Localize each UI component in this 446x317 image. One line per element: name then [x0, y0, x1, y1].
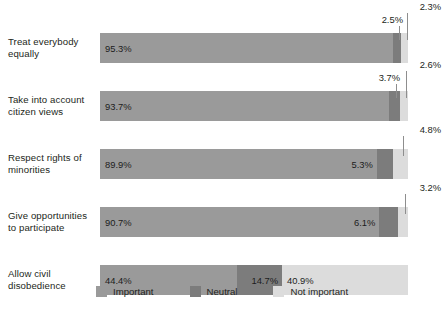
category-label: Take into account citizen views — [8, 94, 96, 117]
segment-value-important: 93.7% — [105, 101, 132, 112]
leader-line-neutral — [399, 26, 400, 40]
category-label: Allow civil disobedience — [8, 268, 96, 291]
segment-value-neutral: 5.3% — [352, 159, 373, 170]
segment-not-important[interactable] — [393, 149, 408, 179]
category-label: Give opportunities to participate — [8, 210, 96, 233]
chart-row: Allow civil disobedience 44.4% 14.7% 40.… — [0, 252, 446, 308]
legend-item-neutral[interactable]: Neutral — [190, 286, 238, 297]
category-label: Respect rights of minorities — [8, 152, 96, 175]
category-label: Treat everybody equally — [8, 36, 96, 59]
segment-important[interactable]: 89.9% 5.3% — [100, 149, 377, 179]
segment-value-neutral: 14.7% — [251, 275, 278, 286]
legend-label-not-important: Not important — [290, 286, 348, 297]
legend-label-neutral: Neutral — [207, 286, 238, 297]
legend-item-important[interactable]: Important — [96, 286, 154, 297]
legend-swatch-not-important — [273, 286, 284, 297]
bar-track: 89.9% 5.3% — [100, 149, 408, 179]
leader-line-not-important — [405, 194, 406, 214]
segment-important[interactable]: 93.7% — [100, 91, 389, 121]
legend-swatch-neutral — [190, 286, 201, 297]
leader-line-not-important — [407, 13, 408, 40]
chart-row: Give opportunities to participate 90.7% … — [0, 194, 446, 250]
segment-value-important: 44.4% — [105, 275, 132, 286]
segment-neutral[interactable] — [389, 91, 400, 121]
chart-row: Respect rights of minorities 89.9% 5.3% … — [0, 136, 446, 192]
callout-not-important: 3.2% — [420, 182, 441, 193]
callout-neutral: 2.5% — [382, 14, 403, 25]
segment-value-important: 89.9% — [105, 159, 132, 170]
segment-not-important[interactable] — [398, 207, 408, 237]
callout-not-important: 2.6% — [420, 59, 441, 70]
segment-important[interactable]: 95.3% — [100, 33, 393, 63]
segment-value-neutral: 6.1% — [354, 217, 375, 228]
chart-row: Take into account citizen views 93.7% 3.… — [0, 78, 446, 134]
segment-neutral[interactable] — [379, 207, 398, 237]
callout-not-important: 4.8% — [420, 124, 441, 135]
segment-value-not-important: 40.9% — [287, 275, 314, 286]
segment-value-important: 95.3% — [105, 43, 132, 54]
bar-track: 90.7% 6.1% — [100, 207, 408, 237]
bar-track: 95.3% — [100, 33, 408, 63]
leader-line-neutral — [396, 84, 397, 98]
chart-row: Treat everybody equally 95.3% 2.5% 2.3% — [0, 20, 446, 76]
leader-line-not-important — [403, 136, 404, 156]
callout-not-important: 2.3% — [420, 1, 441, 12]
stacked-bar-chart: Treat everybody equally 95.3% 2.5% 2.3% … — [0, 0, 446, 317]
chart-legend: Important Neutral Not important — [96, 286, 348, 297]
legend-label-important: Important — [113, 286, 154, 297]
leader-line-not-important — [406, 71, 407, 98]
legend-swatch-important — [96, 286, 107, 297]
segment-value-important: 90.7% — [105, 217, 132, 228]
callout-neutral: 3.7% — [379, 72, 400, 83]
segment-important[interactable]: 90.7% 6.1% — [100, 207, 379, 237]
segment-neutral[interactable] — [377, 149, 393, 179]
bar-track: 93.7% — [100, 91, 408, 121]
legend-item-not-important[interactable]: Not important — [273, 286, 348, 297]
